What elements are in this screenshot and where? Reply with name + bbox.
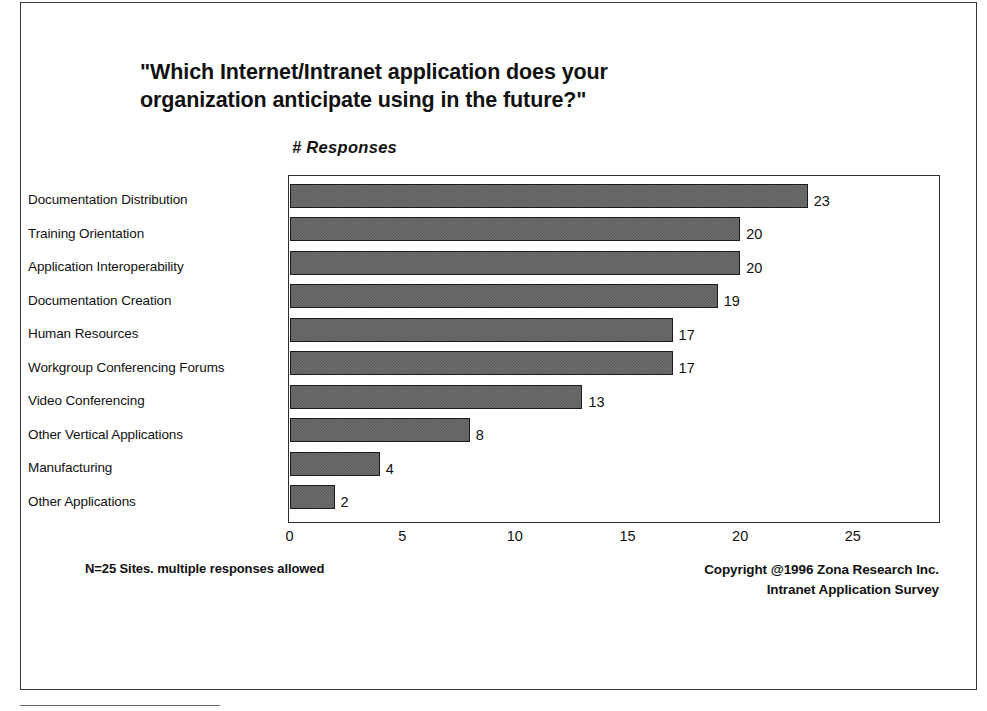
category-label: Workgroup Conferencing Forums [28, 360, 224, 375]
category-label: Documentation Creation [28, 293, 171, 308]
category-row: Workgroup Conferencing Forums [28, 351, 280, 385]
bar-row: 23 [290, 183, 939, 217]
bar [290, 452, 380, 476]
bar-value-label: 20 [746, 260, 762, 276]
category-label: Documentation Distribution [28, 192, 187, 207]
category-label: Video Conferencing [28, 393, 145, 408]
x-tick-label: 20 [732, 528, 748, 544]
category-row: Other Vertical Applications [28, 418, 280, 452]
category-row: Video Conferencing [28, 384, 280, 418]
category-row: Documentation Distribution [28, 183, 280, 217]
bar-value-label: 19 [724, 293, 740, 309]
chart-page: "Which Internet/Intranet application doe… [0, 0, 987, 711]
category-row: Manufacturing [28, 451, 280, 485]
bar-row: 20 [290, 216, 939, 250]
bar-value-label: 8 [476, 427, 484, 443]
x-tick-label: 5 [398, 528, 406, 544]
bar-row: 20 [290, 250, 939, 284]
category-label: Other Applications [28, 494, 136, 509]
bar-row: 4 [290, 451, 939, 485]
bar [290, 351, 673, 375]
bar [290, 284, 718, 308]
copyright-line-2: Intranet Application Survey [704, 580, 939, 600]
bar-row: 8 [290, 417, 939, 451]
bar [290, 485, 335, 509]
category-row: Other Applications [28, 485, 280, 519]
x-tick-label: 10 [507, 528, 523, 544]
x-axis-ticks: 0510152025 [288, 524, 940, 554]
bar [290, 217, 741, 241]
bar-row: 13 [290, 384, 939, 418]
sample-size-note: N=25 Sites. multiple responses allowed [85, 561, 324, 576]
bar [290, 184, 808, 208]
copyright-line-1: Copyright @1996 Zona Research Inc. [704, 560, 939, 580]
bar-row: 17 [290, 317, 939, 351]
category-row: Training Orientation [28, 217, 280, 251]
category-row: Human Resources [28, 317, 280, 351]
copyright-note: Copyright @1996 Zona Research Inc. Intra… [704, 560, 939, 601]
bar [290, 418, 470, 442]
bar [290, 251, 741, 275]
category-axis-labels: Documentation Distribution Training Orie… [28, 175, 280, 523]
chart-title-line-1: "Which Internet/Intranet application doe… [140, 58, 800, 86]
chart-title: "Which Internet/Intranet application doe… [140, 58, 800, 115]
category-label: Application Interoperability [28, 259, 184, 274]
chart-title-line-2: organization anticipate using in the fut… [140, 86, 800, 114]
bar [290, 318, 673, 342]
bar-value-label: 17 [679, 327, 695, 343]
category-label: Training Orientation [28, 226, 144, 241]
bar-value-label: 13 [588, 394, 604, 410]
bar-row: 17 [290, 350, 939, 384]
category-row: Application Interoperability [28, 250, 280, 284]
bar-value-label: 2 [341, 494, 349, 510]
x-axis-caption: # Responses [292, 138, 397, 157]
category-row: Documentation Creation [28, 284, 280, 318]
bar-row: 19 [290, 283, 939, 317]
category-label: Manufacturing [28, 460, 112, 475]
category-label: Human Resources [28, 326, 138, 341]
x-tick-label: 0 [285, 528, 293, 544]
bar-row: 2 [290, 484, 939, 518]
bar-value-label: 23 [814, 193, 830, 209]
bar-series: 23202019171713842 [290, 177, 939, 522]
x-tick-label: 25 [845, 528, 861, 544]
bar-value-label: 4 [386, 461, 394, 477]
page-bottom-rule [20, 705, 220, 706]
bar [290, 385, 583, 409]
bar-value-label: 20 [746, 226, 762, 242]
category-label: Other Vertical Applications [28, 427, 183, 442]
bar-value-label: 17 [679, 360, 695, 376]
x-tick-label: 15 [619, 528, 635, 544]
